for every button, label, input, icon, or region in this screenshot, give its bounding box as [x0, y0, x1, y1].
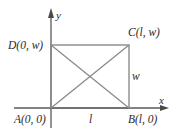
length-label: l — [89, 114, 92, 126]
y-axis-label: y — [56, 10, 61, 21]
vertex-a-label: A(0, 0) — [14, 114, 46, 126]
vertex-b-label: B(l, 0) — [128, 114, 157, 126]
diagram-canvas — [0, 0, 175, 128]
vertex-d-label: D(0, w) — [8, 40, 43, 52]
width-label: w — [132, 71, 140, 83]
rectangle-diagram: y x D(0, w) C(l, w) A(0, 0) B(l, 0) l w — [0, 0, 175, 128]
y-axis-arrow-icon — [48, 8, 54, 18]
x-axis-label: x — [159, 95, 164, 106]
vertex-c-label: C(l, w) — [128, 27, 160, 39]
